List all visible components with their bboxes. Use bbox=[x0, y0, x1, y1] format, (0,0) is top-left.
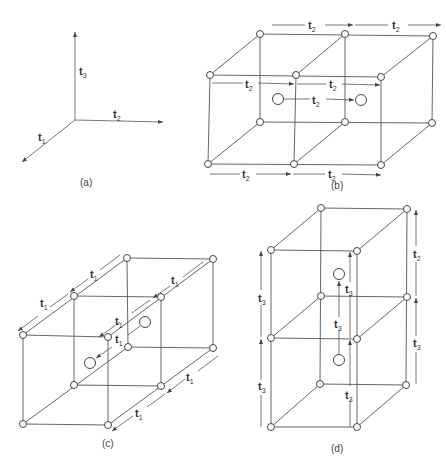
caption-c: (c) bbox=[102, 438, 114, 449]
label-c-3: t1 bbox=[171, 274, 179, 288]
label-c-2: t1 bbox=[40, 297, 48, 311]
label-c-1: t1 bbox=[90, 268, 98, 282]
label-b-bot-1: t2 bbox=[242, 168, 250, 182]
axis-t1-arrow bbox=[22, 120, 75, 162]
label-t1: t1 bbox=[38, 131, 46, 145]
label-d-center: t3 bbox=[334, 318, 342, 332]
caption-d: (d) bbox=[331, 443, 343, 454]
panel-d: t3 t3 t3 t3 t3 t2 t3 (d) bbox=[258, 205, 421, 455]
label-d-inner-1: t3 bbox=[345, 283, 353, 297]
caption-a: (a) bbox=[80, 177, 92, 188]
label-b-mid-2: t2 bbox=[329, 78, 337, 92]
label-b-mid-1: t2 bbox=[245, 78, 253, 92]
label-b-top-2: t2 bbox=[392, 19, 400, 33]
label-c-4: t1 bbox=[115, 315, 123, 329]
label-d-right-1: t2 bbox=[413, 248, 421, 262]
label-d-right-2: t3 bbox=[413, 337, 421, 351]
panel-c: t1 t1 t1 t1 t1 t1 t1 (c) bbox=[18, 255, 218, 450]
lattice-diagram: t3 t2 t1 (a) t2 t2 t2 t2 bbox=[0, 0, 446, 467]
label-t3: t3 bbox=[79, 65, 87, 79]
label-d-left-1: t3 bbox=[258, 292, 266, 306]
label-c-center: t1 bbox=[115, 333, 123, 347]
label-d-inner-2: t3 bbox=[345, 389, 353, 403]
label-b-top-1: t2 bbox=[308, 19, 316, 33]
label-b-center: t2 bbox=[312, 94, 320, 108]
label-d-left-2: t3 bbox=[258, 380, 266, 394]
label-c-6: t1 bbox=[135, 407, 143, 421]
caption-b: (b) bbox=[331, 180, 343, 191]
label-t2: t2 bbox=[113, 108, 121, 122]
label-c-5: t1 bbox=[186, 371, 194, 385]
panel-b: t2 t2 t2 t2 t2 t2 t2 (b) bbox=[205, 19, 442, 191]
panel-a: t3 t2 t1 (a) bbox=[22, 32, 163, 188]
